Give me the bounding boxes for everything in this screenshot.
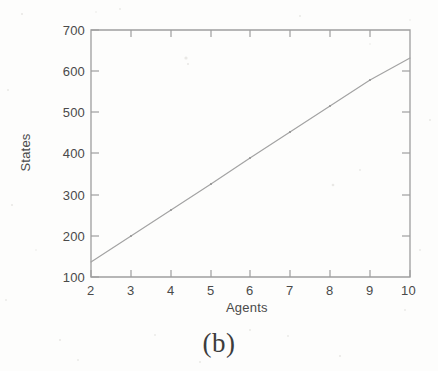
x-tick-label-8: 8 <box>326 283 333 298</box>
x-tick-label-3: 3 <box>127 283 134 298</box>
y-axis-title: States <box>18 133 33 171</box>
x-tick-label-5: 5 <box>207 283 214 298</box>
x-tick-label-9: 9 <box>366 283 373 298</box>
y-tick-label-300: 300 <box>63 188 85 203</box>
x-tick-label-7: 7 <box>286 283 293 298</box>
chart-plot <box>0 0 438 371</box>
plot-frame <box>91 30 410 277</box>
series-states-line <box>91 58 410 262</box>
y-axis-ticks <box>91 30 410 277</box>
figure-panel-b: 700 600 500 400 300 200 100 2 3 4 5 6 7 … <box>0 0 438 371</box>
y-tick-label-500: 500 <box>63 105 85 120</box>
x-tick-label-10: 10 <box>401 283 416 298</box>
x-tick-label-4: 4 <box>167 283 174 298</box>
y-tick-label-700: 700 <box>63 23 85 38</box>
x-axis-title: Agents <box>226 300 268 315</box>
figure-caption: (b) <box>0 328 438 359</box>
x-tick-label-6: 6 <box>246 283 253 298</box>
y-tick-label-200: 200 <box>63 229 85 244</box>
y-tick-label-400: 400 <box>63 146 85 161</box>
y-tick-label-600: 600 <box>63 64 85 79</box>
y-tick-label-100: 100 <box>63 270 85 285</box>
x-axis-ticks <box>91 30 410 277</box>
x-tick-label-2: 2 <box>87 283 94 298</box>
